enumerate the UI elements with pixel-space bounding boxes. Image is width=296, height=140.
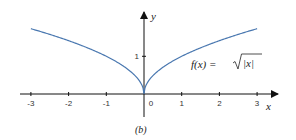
x-tick-label: 1 [179, 99, 184, 108]
x-axis: -3-2-10123 x [20, 92, 278, 112]
figure-caption: (b) [135, 124, 147, 136]
function-label-lhs: f(x) = [191, 58, 216, 71]
x-tick-label: 0 [149, 99, 154, 108]
x-tick-label: 2 [217, 99, 222, 108]
x-tick-label: -1 [103, 99, 111, 108]
x-axis-label: x [265, 100, 271, 112]
y-axis-label: y [150, 10, 156, 22]
y-tick-label: 1 [135, 52, 140, 61]
x-tick-label: -3 [27, 99, 35, 108]
x-tick-label: 3 [255, 99, 260, 108]
sqrt-abs-chart: -3-2-10123 x 1 y f(x) = |x| (b) [0, 0, 296, 140]
function-label-radicand: |x| [243, 57, 254, 69]
x-tick: 0 [149, 99, 154, 108]
x-tick-label: -2 [65, 99, 73, 108]
function-label: f(x) = |x| [191, 54, 262, 71]
